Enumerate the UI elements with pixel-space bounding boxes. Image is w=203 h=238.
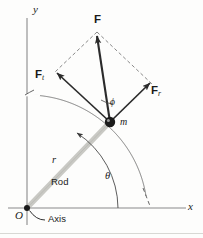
force-radial-symbol: F (151, 84, 158, 96)
force-vector (97, 36, 110, 122)
radius-label: r (52, 155, 56, 166)
theta-angle-arc (77, 133, 118, 208)
force-radial-subscript: r (158, 89, 161, 98)
force-tangential-label: Ft (35, 69, 44, 82)
force-radial-vector (110, 83, 150, 122)
origin-point (24, 205, 30, 211)
phi-label: ϕ (110, 98, 115, 108)
force-tangential-vector (57, 73, 110, 122)
mass-label: m (120, 117, 127, 127)
x-axis-label: x (188, 201, 193, 212)
axis-label: Axis (48, 214, 66, 224)
force-tangential-subscript: t (42, 73, 44, 82)
origin-label: O (15, 210, 23, 221)
rod-band (27, 122, 110, 208)
y-axis-label: y (33, 4, 38, 15)
force-label: F (94, 14, 101, 26)
axis-leader-line (30, 211, 46, 221)
physics-diagram: y x O Axis F Ft Fr m ϕ r Rod θ (0, 0, 203, 238)
force-tangential-symbol: F (35, 68, 42, 80)
rod-label: Rod (51, 177, 68, 187)
theta-label: θ (105, 171, 110, 182)
mass-point (105, 117, 115, 127)
axis-lines (8, 18, 186, 225)
force-radial-label: Fr (151, 85, 161, 98)
diagram-canvas (0, 0, 203, 238)
